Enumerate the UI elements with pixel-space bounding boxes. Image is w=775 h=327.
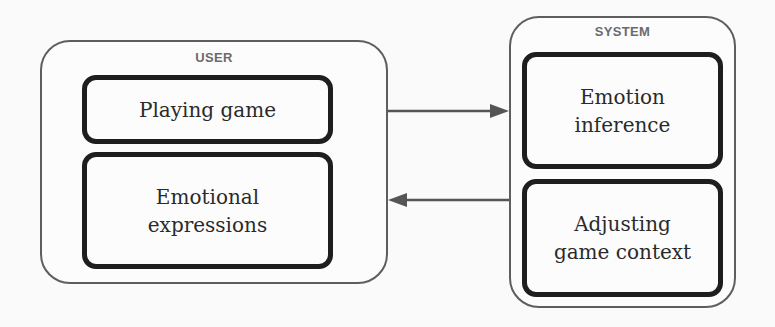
arrow-user-to-system <box>388 104 509 118</box>
arrows-layer <box>0 0 775 327</box>
arrow-system-to-user <box>388 193 509 207</box>
